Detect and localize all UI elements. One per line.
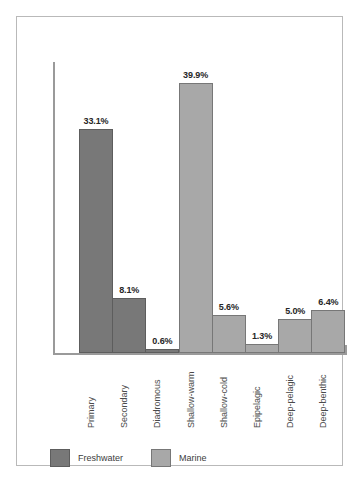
bar-slot: 33.1% [79,62,113,353]
legend-swatch-marine-icon [151,449,171,467]
bar-shallow-warm[interactable] [179,83,213,353]
x-tick-label-wrap: Primary [79,360,113,428]
bar-epipelagic[interactable] [245,344,279,353]
x-tick-label-wrap: Epipelagic [245,360,279,428]
x-tick-label-secondary: Secondary [119,385,129,428]
x-axis-line [53,353,347,355]
x-tick-label-deep-benthic: Deep-benthic [318,374,328,428]
bar-deep-pelagic[interactable] [278,319,312,353]
bar-slot: 6.4% [311,62,345,353]
bar-value-label: 6.4% [298,297,358,307]
legend-swatch-freshwater-icon [50,449,70,467]
x-tick-label-wrap: Deep-benthic [311,360,345,428]
x-tick-label-deep-pelagic: Deep-pelagic [285,375,295,428]
x-tick-label-diadromous: Diadromous [152,379,162,428]
x-tick-label-epipelagic: Epipelagic [252,386,262,428]
legend-label-marine: Marine [179,453,207,463]
y-axis-line [53,62,55,354]
chart-figure: 33.1% 8.1% 0.6% 39.9% 5.6% 1.3% [0,0,358,481]
legend-item-freshwater[interactable]: Freshwater [50,447,123,469]
bar-slot: 5.6% [212,62,246,353]
x-tick-label-shallow-cold: Shallow-cold [219,377,229,428]
chart-frame: 33.1% 8.1% 0.6% 39.9% 5.6% 1.3% [16,16,343,466]
bar-primary[interactable] [79,129,113,353]
plot-area: 33.1% 8.1% 0.6% 39.9% 5.6% 1.3% [53,62,347,355]
bar-diadromous[interactable] [145,349,179,353]
x-tick-label-wrap: Shallow-cold [212,360,246,428]
x-tick-label-wrap: Shallow-warm [179,360,213,428]
x-tick-label-primary: Primary [86,397,96,428]
x-tick-label-wrap: Secondary [112,360,146,428]
bar-slot: 8.1% [112,62,146,353]
x-tick-label-shallow-warm: Shallow-warm [186,371,196,428]
bar-slot: 5.0% [278,62,312,353]
bar-deep-benthic[interactable] [311,310,345,353]
legend-item-marine[interactable]: Marine [151,447,207,469]
x-tick-label-wrap: Deep-pelagic [278,360,312,428]
bar-slot: 0.6% [145,62,179,353]
legend-label-freshwater: Freshwater [78,453,123,463]
x-axis-tick-labels: Primary Secondary Diadromous Shallow-war… [53,360,347,430]
x-tick-label-wrap: Diadromous [145,360,179,428]
